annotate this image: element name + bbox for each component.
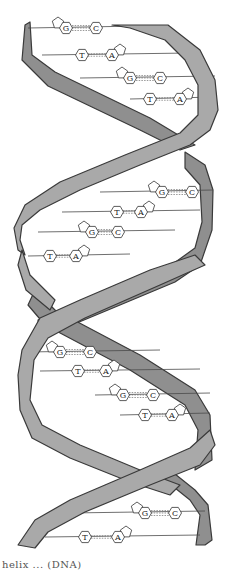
base-letter-C: C: [150, 391, 156, 400]
base-letter-G: G: [159, 188, 165, 197]
base-letter-G: G: [142, 509, 148, 518]
base-letter-G: G: [89, 228, 95, 237]
base-letter-G: G: [120, 391, 126, 400]
figure-caption: helix ... (DNA): [2, 559, 82, 570]
base-letter-T: T: [79, 51, 85, 60]
base-letter-C: C: [172, 509, 178, 518]
base-pair: GC: [38, 221, 175, 238]
base-letter-C: C: [93, 24, 99, 33]
base-letter-G: G: [127, 74, 133, 83]
sugar-phosphate-rung: [62, 210, 200, 212]
base-letter-T: T: [47, 252, 53, 261]
base-letter-C: C: [87, 348, 93, 357]
base-letter-G: G: [57, 348, 63, 357]
base-letter-C: C: [189, 188, 195, 197]
sugar-phosphate-rung: [40, 369, 200, 371]
base-letter-A: A: [114, 533, 121, 542]
base-pair: TA: [62, 201, 200, 218]
base-letter-A: A: [102, 367, 109, 376]
base-letter-T: T: [147, 95, 153, 104]
base-pair: TA: [28, 245, 130, 262]
base-letter-C: C: [115, 228, 121, 237]
base-letter-A: A: [108, 51, 115, 60]
base-pair: GC: [100, 181, 213, 198]
base-letter-T: T: [142, 411, 148, 420]
base-letter-C: C: [157, 74, 163, 83]
base-letter-T: T: [75, 367, 81, 376]
base-pair: TA: [45, 526, 200, 543]
base-letter-T: T: [114, 208, 120, 217]
base-letter-A: A: [72, 252, 79, 261]
base-letter-G: G: [63, 24, 69, 33]
base-letter-A: A: [137, 208, 144, 217]
base-letter-A: A: [168, 411, 175, 420]
base-letter-A: A: [176, 95, 183, 104]
base-pair: TA: [42, 44, 190, 61]
base-letter-T: T: [82, 533, 88, 542]
